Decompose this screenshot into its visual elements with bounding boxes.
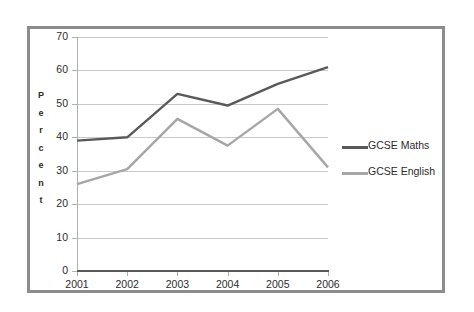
x-axis-tick [177,272,178,276]
x-axis-tick [328,272,329,276]
x-axis-tick-label: 2001 [55,278,99,290]
y-axis-tick-label: 0 [34,264,68,276]
chart-page: Percent 010203040506070 2001200220032004… [0,0,474,312]
x-axis-tick-label: 2006 [306,278,350,290]
line-chart: Percent 010203040506070 2001200220032004… [30,29,448,296]
chart-frame-border: Percent 010203040506070 2001200220032004… [27,26,445,293]
y-axis-tick-label: 60 [34,63,68,75]
y-axis-tick-label: 70 [34,30,68,42]
legend-item[interactable]: GCSE Maths [342,137,442,163]
x-axis-tick-label: 2004 [206,278,250,290]
x-axis-tick [77,272,78,276]
x-axis-tick [228,272,229,276]
series-line [77,67,328,141]
y-axis-tick-label: 50 [34,97,68,109]
legend-label: GCSE English [368,165,435,177]
x-axis-tick [278,272,279,276]
series-lines [77,37,328,271]
legend-item[interactable]: GCSE English [342,163,442,189]
legend-label: GCSE Maths [368,139,429,151]
y-axis-title-letter: n [33,175,49,193]
x-axis-tick-label: 2005 [256,278,300,290]
x-axis-tick-label: 2003 [155,278,199,290]
legend-line-swatch [342,172,368,175]
x-axis-tick [127,272,128,276]
legend-line-swatch [342,146,368,149]
chart-legend: GCSE MathsGCSE English [342,137,442,189]
y-axis-tick-label: 30 [34,164,68,176]
x-axis-tick-label: 2002 [105,278,149,290]
y-axis-tick-label: 40 [34,130,68,142]
y-axis-tick-label: 10 [34,231,68,243]
series-line [77,109,328,184]
y-axis-tick-label: 20 [34,197,68,209]
